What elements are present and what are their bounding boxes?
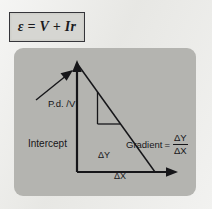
fraction-numerator: ΔY [173,133,188,143]
y-axis [72,60,82,172]
intercept-arrow [36,70,73,100]
delta-x-label: ΔX [114,172,126,181]
x-axis [77,167,178,177]
gradient-formula: Gradient = ΔY ΔX [126,133,188,156]
gradient-word: Gradient [126,139,162,150]
intercept-label: Intercept [28,139,67,149]
delta-y-label: ΔY [98,151,110,160]
graph-axes-and-line [14,48,196,196]
gradient-fraction: ΔY ΔX [173,133,188,156]
equation-text: ε = V + Ir [18,19,77,35]
y-axis-label: P.d. /V [48,99,75,109]
fraction-denominator: ΔX [173,146,188,156]
figure-page: ε = V + Ir [0,0,212,209]
gradient-equals-sign: = [164,139,170,150]
graph-panel: P.d. /V Current / A Intercept ΔY ΔX Grad… [14,48,196,196]
equation-box: ε = V + Ir [9,12,85,42]
